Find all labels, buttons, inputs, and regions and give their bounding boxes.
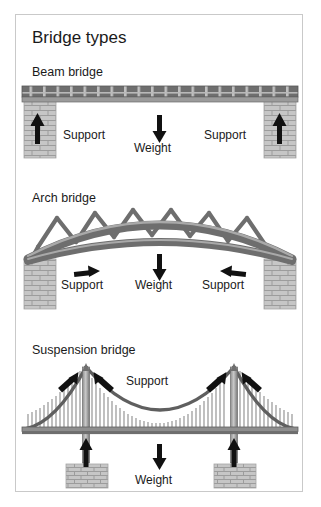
- suspension-bridge-figure: [16, 15, 304, 493]
- suspension-support-label: Support: [126, 374, 168, 388]
- suspension-foundation-left: [66, 464, 108, 488]
- suspension-foundation-right: [214, 464, 256, 488]
- suspension-pier-arrow-right: [228, 438, 241, 467]
- suspension-tower-left-inner-arrow: [94, 372, 114, 393]
- suspension-deck: [22, 427, 298, 434]
- suspension-weight-arrow: [153, 444, 167, 470]
- suspension-weight-label: Weight: [135, 473, 172, 487]
- suspension-pier-arrow-left: [80, 438, 93, 467]
- poster-frame: Bridge types Beam bridge: [15, 14, 303, 492]
